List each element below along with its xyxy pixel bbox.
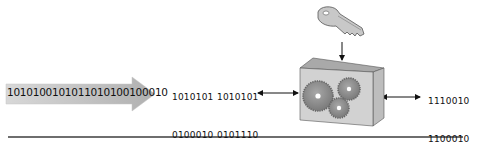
plaintext-row: 1010101	[172, 91, 213, 104]
plaintext-row: 0101110	[217, 129, 258, 142]
plaintext-column-2: 1010101 0101110 1010010 1011101	[217, 66, 258, 143]
gear-box-icon	[300, 58, 384, 126]
plaintext-row: 1010101	[217, 91, 258, 104]
ciphertext-row: 1110010	[428, 95, 469, 108]
ciphertext-column: 1110010 1100010 1011001 1010101	[428, 70, 469, 143]
plaintext-column-1: 1010101 0100010 1010010 1010101	[172, 66, 213, 143]
gear-small-top	[338, 78, 360, 100]
plaintext-row: 0100010	[172, 129, 213, 142]
ciphertext-row: 1100010	[428, 133, 469, 144]
key-icon	[318, 7, 364, 36]
gear-small-bottom	[329, 98, 349, 118]
input-stream-label: 1010100101011010100100010	[7, 86, 168, 98]
